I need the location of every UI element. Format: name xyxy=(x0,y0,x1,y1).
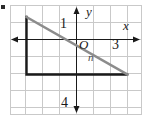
y-axis-up-arrow xyxy=(74,7,80,14)
coordinate-grid-figure: 1 y x O n 3 4 xyxy=(0,0,143,122)
label-one: 1 xyxy=(60,17,67,31)
x-axis-right-arrow xyxy=(133,37,140,43)
label-origin: O xyxy=(79,38,88,51)
figure-canvas xyxy=(0,0,143,122)
y-axis-down-arrow xyxy=(74,106,80,113)
label-y-axis: y xyxy=(86,5,92,18)
x-axis xyxy=(11,37,140,43)
label-four: 4 xyxy=(61,96,68,110)
label-three: 3 xyxy=(112,38,119,52)
label-line-n: n xyxy=(88,52,94,63)
label-x-axis: x xyxy=(123,19,129,32)
x-axis-left-arrow xyxy=(11,37,18,43)
